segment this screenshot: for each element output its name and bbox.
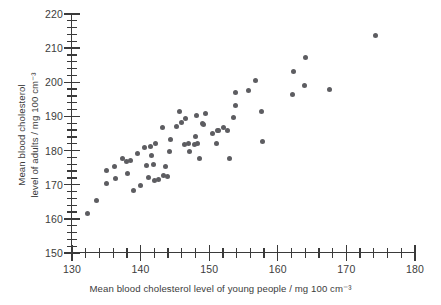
x-axis-tick-label: 150 [189, 263, 229, 275]
scatter-point [214, 141, 219, 146]
x-axis-tick-label: 180 [395, 263, 435, 275]
scatter-point [148, 144, 153, 149]
scatter-point [327, 87, 332, 92]
scatter-point [138, 183, 143, 188]
x-axis-tick-label: 160 [258, 263, 298, 275]
y-axis-title-line1: Mean blood cholesterol [15, 30, 28, 240]
scatter-point [186, 141, 191, 146]
scatter-point [233, 90, 238, 95]
scatter-point [144, 163, 149, 168]
scatter-point [194, 113, 199, 118]
scatter-point [142, 145, 147, 150]
scatter-plot-figure: 150160170180190200210220 130140150160170… [0, 0, 441, 305]
scatter-point [156, 177, 161, 182]
scatter-point [135, 151, 140, 156]
scatter-point [303, 55, 308, 60]
scatter-point [201, 122, 206, 127]
scatter-point [177, 109, 182, 114]
scatter-point [174, 124, 179, 129]
scatter-point [187, 149, 192, 154]
scatter-point [259, 109, 264, 114]
scatter-point [112, 164, 117, 169]
x-axis-tick-label: 130 [52, 263, 92, 275]
scatter-point [85, 211, 90, 216]
scatter-point [290, 92, 295, 97]
scatter-point [104, 181, 109, 186]
plot-area [72, 14, 415, 253]
scatter-point [128, 158, 133, 163]
scatter-point [233, 103, 238, 108]
scatter-point [291, 69, 296, 74]
scatter-point [373, 33, 378, 38]
x-axis-tick-label: 140 [121, 263, 161, 275]
scatter-point [94, 198, 99, 203]
x-axis-title: Mean blood cholesterol level of young pe… [0, 283, 441, 294]
scatter-point [253, 78, 258, 83]
scatter-point [168, 137, 173, 142]
scatter-point [246, 88, 251, 93]
scatter-point [163, 164, 168, 169]
scatter-point [149, 153, 154, 158]
scatter-point [153, 141, 158, 146]
y-axis-tick-label: 150 [3, 247, 63, 259]
scatter-point [260, 139, 265, 144]
scatter-point [179, 120, 184, 125]
scatter-point [227, 156, 232, 161]
scatter-point [146, 175, 151, 180]
x-axis-tick-label: 170 [326, 263, 366, 275]
scatter-point [165, 174, 170, 179]
scatter-point [195, 141, 200, 146]
y-axis-title: Mean blood cholesterol level of adults /… [15, 30, 41, 240]
scatter-point [231, 115, 236, 120]
scatter-point [302, 83, 307, 88]
scatter-point [125, 171, 130, 176]
scatter-point [225, 128, 230, 133]
scatter-point [197, 156, 202, 161]
scatter-point [183, 116, 188, 121]
scatter-point [193, 134, 198, 139]
y-axis-title-line2: level of adults / mg 100 cm⁻³ [28, 30, 41, 240]
scatter-point [160, 125, 165, 130]
scatter-point [131, 188, 136, 193]
scatter-point [113, 176, 118, 181]
scatter-point [151, 162, 156, 167]
scatter-point [203, 111, 208, 116]
y-axis-tick-label: 220 [3, 8, 63, 20]
scatter-point [104, 168, 109, 173]
scatter-point [167, 149, 172, 154]
